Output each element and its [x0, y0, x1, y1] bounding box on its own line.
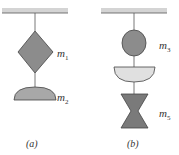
mass-m5-hourglass: [121, 94, 148, 128]
mass-m1-diamond: [18, 31, 53, 73]
label-m3: m3: [159, 40, 170, 54]
caption-a: (a): [26, 138, 38, 149]
ceiling-b: [101, 8, 167, 13]
caption-b: (b): [127, 138, 139, 149]
mass-m3-circle: [122, 30, 146, 56]
label-m1: m1: [57, 48, 68, 62]
panel-b: [101, 8, 167, 128]
label-m2: m2: [57, 92, 68, 106]
mass-m2-dome: [14, 87, 56, 100]
ceiling-a: [2, 8, 68, 13]
mass-bowl: [114, 67, 155, 82]
label-m5: m5: [159, 108, 170, 122]
pulley-diagram: [0, 0, 179, 155]
